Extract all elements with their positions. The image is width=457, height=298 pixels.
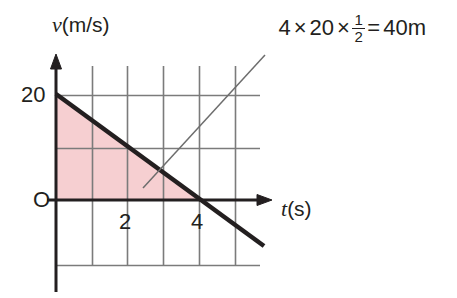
y-axis-arrowhead [51,54,62,69]
x-axis-title: t(s) [281,198,312,220]
formula-term-4: 4 [279,17,291,39]
y-axis-variable: v [52,12,62,37]
velocity-time-diagram: v(m/s) t(s) 20 O 2 4 4 × 20 × 1 2 = 40m [0,0,457,298]
formula-multiply-icon: × [337,17,350,39]
formula-result: 40m [383,17,426,39]
origin-label: O [33,189,50,211]
y-axis-tick-label-20: 20 [21,84,45,106]
formula-term-20: 20 [310,17,334,39]
y-axis-unit: (m/s) [62,13,110,36]
formula-multiply-icon: × [294,17,307,39]
fraction-denominator: 2 [352,29,364,45]
x-axis-arrowhead [257,195,272,206]
x-axis-tick-label-2: 2 [119,211,131,233]
annotation-leader-line [143,55,265,188]
fraction-numerator: 1 [352,12,364,28]
formula-fraction-one-half: 1 2 [352,12,364,45]
x-axis-tick-label-4: 4 [191,211,203,233]
y-axis-title: v(m/s) [52,14,110,36]
formula-equals-sign: = [367,17,380,39]
area-formula-annotation: 4 × 20 × 1 2 = 40m [277,12,427,45]
x-axis-unit: (s) [287,197,312,220]
